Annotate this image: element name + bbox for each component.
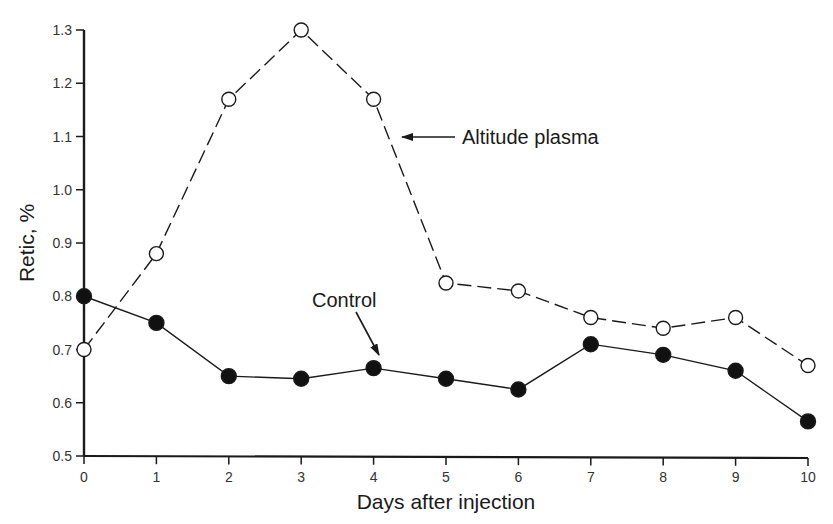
x-tick-label: 5 <box>442 469 450 485</box>
control-annotation-arrow <box>356 312 379 355</box>
x-tick-label: 10 <box>800 469 816 485</box>
y-axis-title: Retic, % <box>15 204 38 282</box>
open-circle-marker <box>801 358 815 372</box>
control-label: Control <box>312 289 376 311</box>
x-tick-label: 9 <box>732 469 740 485</box>
x-tick-label: 8 <box>659 469 667 485</box>
y-tick-label: 0.6 <box>53 395 73 411</box>
open-circle-marker <box>656 321 670 335</box>
axes: 0.50.60.70.80.91.01.11.21.3012345678910D… <box>15 22 816 513</box>
y-tick-label: 1.2 <box>53 75 73 91</box>
y-tick-label: 0.9 <box>53 235 73 251</box>
filled-circle-marker <box>366 361 381 376</box>
y-tick-label: 1.0 <box>53 182 73 198</box>
series-line <box>84 30 808 365</box>
filled-circle-marker <box>77 289 92 304</box>
filled-circle-marker <box>511 382 526 397</box>
filled-circle-marker <box>149 315 164 330</box>
open-circle-marker <box>584 311 598 325</box>
x-tick-label: 6 <box>515 469 523 485</box>
altitude-plasma-label: Altitude plasma <box>462 126 600 148</box>
x-tick-label: 4 <box>370 469 378 485</box>
filled-circle-marker <box>801 414 816 429</box>
open-circle-marker <box>367 92 381 106</box>
x-tick-label: 2 <box>225 469 233 485</box>
open-circle-marker <box>729 311 743 325</box>
y-tick-label: 0.5 <box>53 448 73 464</box>
open-circle-marker <box>439 276 453 290</box>
open-circle-marker <box>294 23 308 37</box>
x-tick-label: 0 <box>80 469 88 485</box>
open-circle-marker <box>222 92 236 106</box>
y-tick-label: 0.8 <box>53 288 73 304</box>
annotations: Altitude plasma Control <box>312 126 600 355</box>
filled-circle-marker <box>656 347 671 362</box>
filled-circle-marker <box>294 371 309 386</box>
open-circle-marker <box>77 343 91 357</box>
y-tick-label: 1.1 <box>53 129 73 145</box>
x-tick-label: 1 <box>153 469 161 485</box>
x-axis-title: Days after injection <box>357 490 536 513</box>
open-circle-marker <box>149 247 163 261</box>
y-tick-label: 1.3 <box>53 22 73 38</box>
series-control <box>77 289 816 429</box>
filled-circle-marker <box>583 337 598 352</box>
open-circle-marker <box>511 284 525 298</box>
y-tick-label: 0.7 <box>53 342 73 358</box>
x-tick-label: 7 <box>587 469 595 485</box>
line-chart: 0.50.60.70.80.91.01.11.21.3012345678910D… <box>0 0 833 524</box>
series-line <box>84 296 808 421</box>
x-tick-label: 3 <box>297 469 305 485</box>
filled-circle-marker <box>439 371 454 386</box>
filled-circle-marker <box>221 369 236 384</box>
series-altitude-plasma <box>77 23 815 372</box>
filled-circle-marker <box>728 363 743 378</box>
